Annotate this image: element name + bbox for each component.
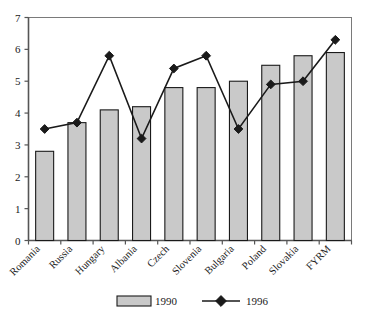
y-tick-label: 1 <box>15 203 21 215</box>
chart-container: 01234567 RomaniaRussiaHungaryAlbaniaCzec… <box>0 0 365 319</box>
y-tick-label: 3 <box>15 139 21 151</box>
y-tick-label: 2 <box>15 171 21 183</box>
legend-label-1996: 1996 <box>246 295 269 307</box>
bar-romania <box>36 151 54 240</box>
bar-fyrm <box>326 53 344 241</box>
y-tick-label: 5 <box>15 75 21 87</box>
y-tick-label: 6 <box>15 43 21 55</box>
bar-poland <box>262 65 280 240</box>
legend-label-1990: 1990 <box>155 295 178 307</box>
bar-line-chart: 01234567 RomaniaRussiaHungaryAlbaniaCzec… <box>0 0 365 319</box>
bar-russia <box>68 123 86 241</box>
y-tick-label: 0 <box>15 235 21 247</box>
y-tick-label: 7 <box>15 12 21 24</box>
bar-bulgaria <box>229 81 247 240</box>
bar-czech <box>165 88 183 241</box>
bar-hungary <box>100 110 118 241</box>
y-tick-label: 4 <box>15 107 21 119</box>
bar-slovenia <box>197 88 215 241</box>
legend-swatch-1990 <box>117 296 151 306</box>
